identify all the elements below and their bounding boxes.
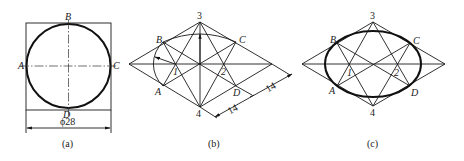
- point-d-label: D: [62, 109, 71, 120]
- caption-c: (c): [367, 138, 378, 150]
- line-3-a: [163, 22, 200, 86]
- construction-arc-top: [163, 34, 236, 42]
- line-3-d: [200, 22, 236, 86]
- point-a-label: A: [17, 60, 25, 71]
- extension-4: [200, 107, 217, 118]
- point-c-label: C: [113, 60, 120, 71]
- point-1-label: 1: [173, 66, 178, 77]
- point-4-label: 4: [370, 107, 375, 118]
- point-2-label: 2: [221, 66, 226, 77]
- point-1-label: 1: [347, 67, 352, 78]
- extension-right: [272, 64, 290, 75]
- point-2-label: 2: [394, 67, 399, 78]
- point-3-label: 3: [197, 10, 202, 21]
- diagram-canvas: ϕ28 B A C D (a) 3 4 B A: [0, 0, 464, 161]
- point-a-label: A: [154, 86, 162, 97]
- dimension-14-upper: 14: [264, 80, 278, 95]
- point-a-label: A: [328, 85, 336, 96]
- figure-b: 3 4 B A C D 1 2 14 14 (b): [129, 10, 292, 150]
- point-c-label: C: [413, 35, 420, 46]
- point-d-label: D: [410, 87, 419, 98]
- point-b-label: B: [65, 11, 71, 22]
- point-c-label: C: [239, 34, 246, 45]
- line-4-c: [200, 42, 236, 107]
- point-b-label: B: [330, 34, 336, 45]
- point-4-label: 4: [196, 108, 201, 119]
- point-3-label: 3: [370, 10, 375, 21]
- point-d-label: D: [232, 87, 241, 98]
- point-b-label: B: [156, 34, 162, 45]
- caption-b: (b): [208, 138, 220, 150]
- caption-a: (a): [62, 138, 73, 150]
- figure-c: 3 4 B A C D 1 2 (c): [302, 10, 445, 150]
- figure-a: ϕ28 B A C D (a): [17, 11, 120, 150]
